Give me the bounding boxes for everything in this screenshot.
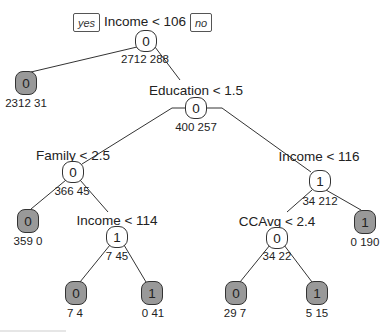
leaf-counts: 29 7 bbox=[224, 307, 246, 319]
ccavg-node: 0 bbox=[266, 227, 288, 249]
education-node: 0 bbox=[185, 97, 207, 119]
leaf-counts: 359 0 bbox=[14, 235, 43, 247]
tree-edges bbox=[0, 0, 392, 332]
leaf-node: 0 bbox=[225, 281, 247, 305]
education-split-label: Education < 1.5 bbox=[149, 83, 243, 98]
leaf-node: 1 bbox=[306, 281, 328, 305]
leaf-node: 0 bbox=[15, 71, 37, 95]
leaf-node: 0 bbox=[65, 281, 87, 305]
income116-node: 1 bbox=[309, 170, 331, 192]
leaf-counts: 5 15 bbox=[306, 307, 328, 319]
leaf-counts: 7 4 bbox=[67, 307, 83, 319]
leaf-node: 1 bbox=[141, 281, 163, 305]
yes-branch-tag: yes bbox=[73, 13, 100, 32]
income114-node: 1 bbox=[106, 226, 128, 248]
family-node: 0 bbox=[62, 161, 84, 183]
leaf-counts: 0 190 bbox=[351, 236, 380, 248]
leaf-node: 1 bbox=[354, 210, 376, 234]
income114-counts: 7 45 bbox=[106, 250, 128, 262]
no-branch-tag: no bbox=[190, 13, 212, 32]
family-counts: 366 45 bbox=[54, 185, 89, 197]
leaf-counts: 2312 31 bbox=[5, 97, 47, 109]
leaf-node: 0 bbox=[17, 209, 39, 233]
root-counts: 2712 288 bbox=[121, 53, 169, 65]
income116-counts: 34 212 bbox=[302, 195, 337, 207]
ccavg-counts: 34 22 bbox=[263, 250, 292, 262]
income116-split-label: Income < 116 bbox=[278, 149, 359, 164]
root-split-label: Income < 106 bbox=[104, 14, 186, 29]
root-node: 0 bbox=[135, 30, 157, 52]
education-counts: 400 257 bbox=[175, 121, 217, 133]
decision-tree: yes no Income < 106 0 2712 288 0 2312 31… bbox=[0, 0, 392, 332]
leaf-counts: 0 41 bbox=[142, 307, 164, 319]
